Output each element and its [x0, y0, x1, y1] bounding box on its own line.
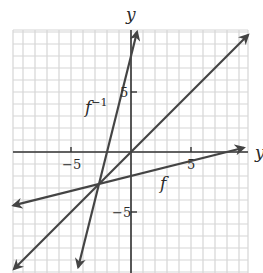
tick-label-x-neg5: −5: [62, 157, 81, 172]
tick-label-y-5: 5: [120, 85, 128, 100]
tick-label-y-neg5: −5: [112, 205, 131, 220]
tick-label-x-5: 5: [187, 157, 195, 172]
f-inverse-superscript: −1: [91, 96, 107, 109]
x-axis-label: y: [254, 142, 263, 162]
graph: y y −5 5 5 −5 f f−1: [0, 0, 263, 273]
f-line: [13, 148, 243, 206]
y-axis-label: y: [125, 4, 136, 24]
